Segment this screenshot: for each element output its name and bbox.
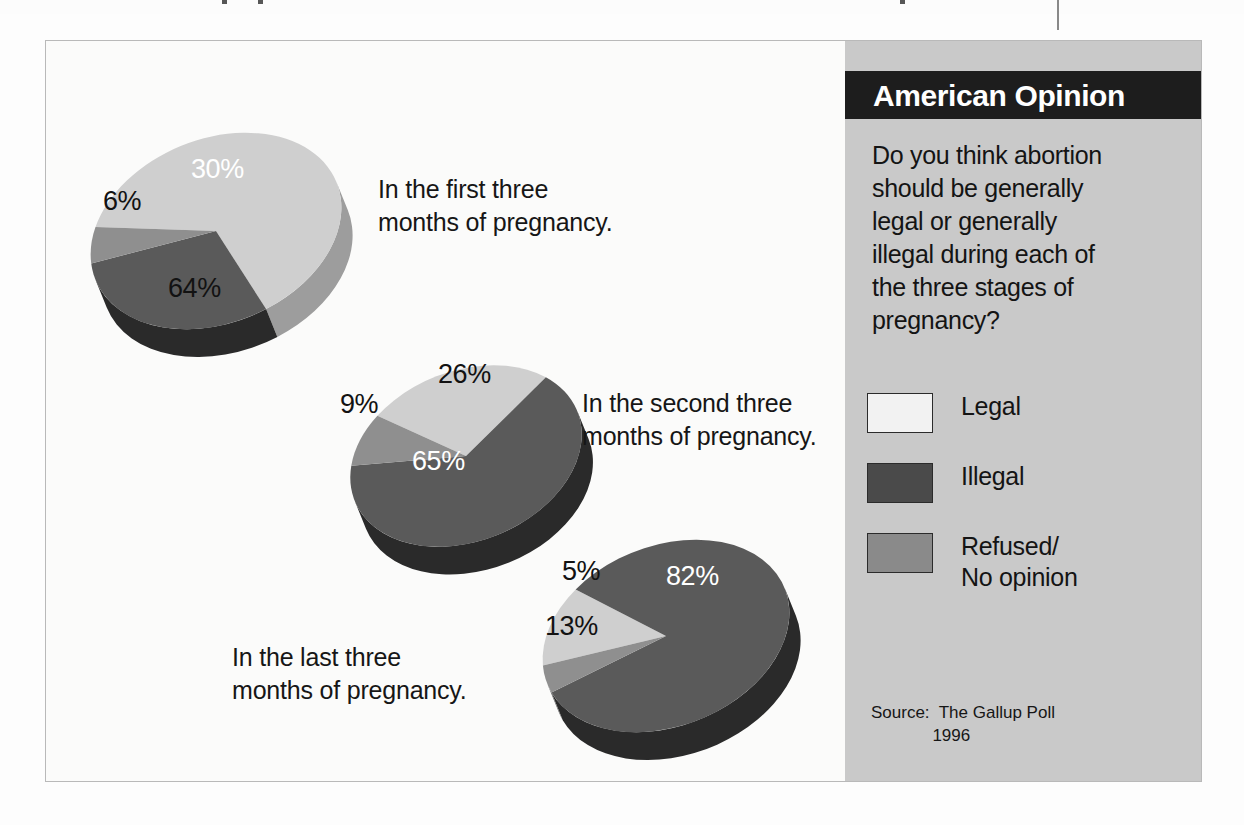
text-descender-artifact xyxy=(258,0,263,4)
pie-value-label: 13% xyxy=(545,611,598,642)
pie-value-label: 65% xyxy=(412,446,465,477)
pie-value-label: 9% xyxy=(340,389,378,420)
infographic-frame: In the first three months of pregnancy.6… xyxy=(45,40,1202,782)
legend-swatch-legal xyxy=(867,393,933,433)
legend-row: Refused/ No opinion xyxy=(867,531,1187,593)
column-rule-divider xyxy=(1057,0,1059,30)
legend-swatch-illegal xyxy=(867,463,933,503)
text-descender-artifact xyxy=(900,0,905,4)
pie-caption-second-trimester: In the second three months of pregnancy. xyxy=(582,387,817,453)
pie-value-label: 5% xyxy=(562,556,600,587)
pie-caption-first-trimester: In the first three months of pregnancy. xyxy=(378,173,613,239)
pie-caption-third-trimester: In the last three months of pregnancy. xyxy=(232,641,467,707)
legend: LegalIllegalRefused/ No opinion xyxy=(867,391,1187,621)
legend-swatch-refused xyxy=(867,533,933,573)
pie-value-label: 26% xyxy=(438,359,491,390)
legend-label: Legal xyxy=(961,391,1021,422)
source-credit: Source: The Gallup Poll 1996 xyxy=(871,701,1055,747)
panel-question-text: Do you think abortion should be generall… xyxy=(872,139,1172,337)
panel-title: American Opinion xyxy=(873,79,1125,113)
pie-value-label: 64% xyxy=(168,273,221,304)
pie-chart-third-trimester xyxy=(514,505,830,781)
pie-chart-first-trimester xyxy=(61,97,382,393)
legend-label: Refused/ No opinion xyxy=(961,531,1078,593)
pie-value-label: 30% xyxy=(191,154,244,185)
legend-row: Illegal xyxy=(867,461,1187,503)
pie-chart-area: In the first three months of pregnancy.6… xyxy=(46,41,846,781)
american-opinion-panel: American Opinion Do you think abortion s… xyxy=(845,41,1201,781)
pie-value-label: 6% xyxy=(103,186,141,217)
text-descender-artifact xyxy=(222,0,227,4)
pie-value-label: 82% xyxy=(666,561,719,592)
legend-row: Legal xyxy=(867,391,1187,433)
legend-label: Illegal xyxy=(961,461,1024,492)
